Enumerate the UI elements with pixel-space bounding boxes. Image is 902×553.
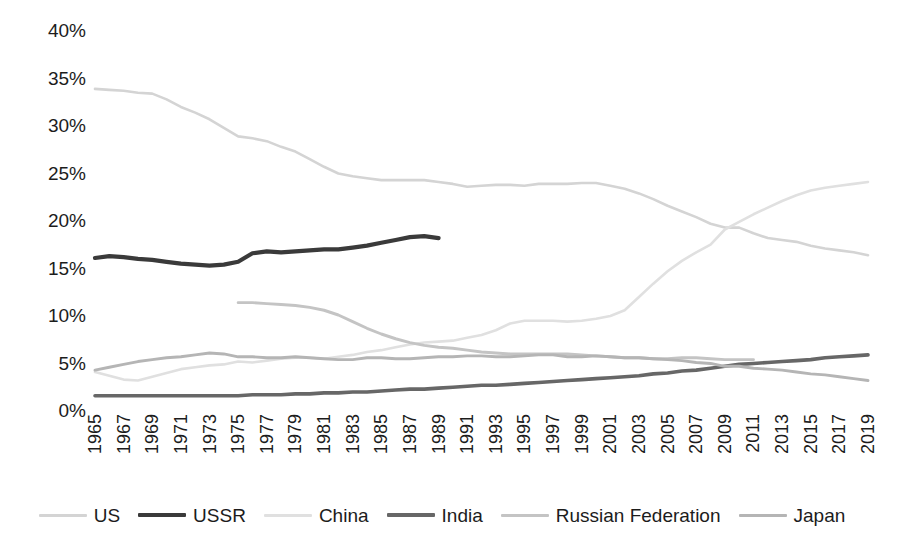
x-tick-label: 1995: [515, 414, 533, 454]
line-chart: 0%5%10%15%20%25%30%35%40% 19651967196919…: [0, 0, 902, 553]
x-tick-label: 1983: [344, 414, 362, 454]
chart-svg: [0, 0, 902, 430]
legend-item-china[interactable]: China: [264, 506, 369, 525]
x-tick-label: 2003: [630, 414, 648, 454]
x-tick-label: 1981: [315, 414, 333, 454]
legend-item-japan[interactable]: Japan: [739, 506, 846, 525]
legend-swatch-icon: [138, 513, 186, 517]
x-tick-label: 1985: [372, 414, 390, 454]
x-tick-label: 2015: [802, 414, 820, 454]
legend-swatch-icon: [501, 514, 549, 517]
x-tick-label: 1979: [286, 414, 304, 454]
legend-label: Japan: [794, 506, 846, 525]
x-tick-label: 2011: [744, 414, 762, 453]
legend-item-us[interactable]: US: [39, 506, 120, 525]
legend-label: USSR: [193, 506, 246, 525]
legend-swatch-icon: [39, 514, 87, 517]
x-tick-label: 1989: [430, 414, 448, 454]
legend-label: China: [319, 506, 369, 525]
legend-swatch-icon: [387, 513, 435, 517]
x-tick-label: 2009: [716, 414, 734, 454]
legend-item-india[interactable]: India: [387, 506, 483, 525]
x-axis: 1965196719691971197319751977197919811983…: [0, 414, 902, 492]
legend-swatch-icon: [739, 514, 787, 517]
x-tick-label: 2001: [601, 414, 619, 454]
x-tick-label: 1997: [544, 414, 562, 454]
x-tick-label: 1987: [401, 414, 419, 454]
legend-item-russian-federation[interactable]: Russian Federation: [501, 506, 721, 525]
x-tick-label: 2013: [773, 414, 791, 454]
plot-area: [0, 0, 902, 430]
x-tick-label: 1993: [487, 414, 505, 454]
legend-swatch-icon: [264, 514, 312, 517]
x-tick-label: 2017: [830, 414, 848, 454]
series-line-ussr: [95, 236, 439, 265]
x-tick-label: 2005: [659, 414, 677, 454]
x-tick-label: 1969: [143, 414, 161, 454]
x-tick-label: 1965: [86, 414, 104, 454]
x-tick-label: 1971: [172, 414, 190, 454]
legend-item-ussr[interactable]: USSR: [138, 506, 246, 525]
x-tick-label: 2007: [687, 414, 705, 454]
x-tick-label: 1999: [573, 414, 591, 454]
series-line-japan: [95, 353, 868, 381]
x-tick-label: 1967: [115, 414, 133, 454]
x-tick-label: 2019: [859, 414, 877, 454]
legend-label: Russian Federation: [556, 506, 721, 525]
legend-label: India: [442, 506, 483, 525]
chart-legend: USUSSRChinaIndiaRussian FederationJapan: [0, 496, 902, 534]
series-line-us: [95, 89, 868, 255]
x-tick-label: 1991: [458, 414, 476, 454]
x-tick-label: 1977: [258, 414, 276, 454]
x-tick-label: 1975: [229, 414, 247, 454]
x-tick-label: 1973: [201, 414, 219, 454]
legend-label: US: [94, 506, 120, 525]
